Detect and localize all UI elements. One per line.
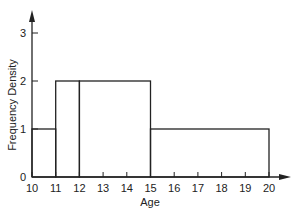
bars (32, 81, 269, 177)
histogram-bar (56, 81, 80, 177)
x-tick-label: 17 (192, 182, 204, 194)
x-tick-label: 13 (97, 182, 109, 194)
histogram-bar (79, 81, 150, 177)
y-tick-label: 1 (20, 123, 26, 135)
x-tick-label: 14 (121, 182, 133, 194)
x-tick-label: 16 (168, 182, 180, 194)
y-axis-arrow-icon (29, 10, 35, 22)
tick-labels: 10111213141516171819200123 (20, 27, 275, 194)
histogram-bar (32, 129, 56, 177)
x-tick-label: 10 (26, 182, 38, 194)
histogram-chart: 10111213141516171819200123 Age Frequency… (0, 0, 293, 220)
x-tick-label: 15 (144, 182, 156, 194)
y-tick-label: 3 (20, 27, 26, 39)
x-tick-label: 18 (215, 182, 227, 194)
x-tick-label: 20 (263, 182, 275, 194)
histogram-bar (151, 129, 270, 177)
x-axis-arrow-icon (279, 174, 291, 180)
x-tick-label: 12 (73, 182, 85, 194)
x-tick-label: 11 (50, 182, 61, 194)
y-tick-label: 2 (20, 75, 26, 87)
axes (29, 10, 291, 180)
y-axis-label: Frequency Density (6, 59, 18, 151)
x-tick-label: 19 (239, 182, 251, 194)
y-tick-label: 0 (20, 171, 26, 183)
x-axis-label: Age (140, 196, 160, 208)
